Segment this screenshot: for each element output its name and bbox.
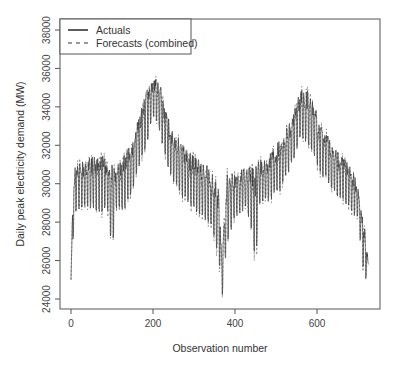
y-tick-label: 34000 (41, 93, 52, 121)
y-tick-label: 28000 (41, 208, 52, 236)
legend: Actuals Forecasts (combined) (60, 19, 198, 54)
x-tick-label: 0 (68, 318, 74, 329)
actuals-line (71, 79, 368, 294)
x-axis: 0200400600 (68, 309, 326, 329)
chart: 2400026000280003000032000340003600038000… (0, 0, 397, 369)
y-tick-label: 24000 (41, 285, 52, 313)
legend-label-forecasts: Forecasts (combined) (96, 37, 198, 49)
x-tick-label: 400 (227, 318, 244, 329)
x-tick-label: 200 (145, 318, 162, 329)
legend-label-actuals: Actuals (96, 24, 130, 36)
y-tick-label: 26000 (41, 246, 52, 274)
x-axis-title: Observation number (172, 342, 268, 354)
data-series (71, 76, 368, 297)
y-tick-label: 36000 (41, 54, 52, 82)
y-tick-label: 32000 (41, 131, 52, 159)
y-axis: 2400026000280003000032000340003600038000 (41, 16, 60, 313)
y-tick-label: 30000 (41, 169, 52, 197)
x-tick-label: 600 (309, 318, 326, 329)
y-axis-title: Daily peak electricity demand (MW) (14, 81, 26, 246)
y-tick-label: 38000 (41, 16, 52, 44)
